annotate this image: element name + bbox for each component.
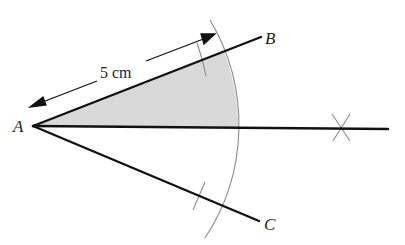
- line-ac: [33, 126, 259, 221]
- point-label-a: A: [12, 117, 24, 136]
- shaded-sector: [33, 52, 238, 129]
- point-label-b: B: [265, 29, 276, 48]
- construction-diagram: 5 cm A B C: [0, 0, 405, 245]
- arrowhead-right-icon: [201, 34, 215, 44]
- bisector-line: [33, 126, 388, 129]
- measurement-label: 5 cm: [100, 64, 132, 81]
- arrowhead-left-icon: [30, 97, 46, 107]
- point-label-c: C: [264, 215, 276, 234]
